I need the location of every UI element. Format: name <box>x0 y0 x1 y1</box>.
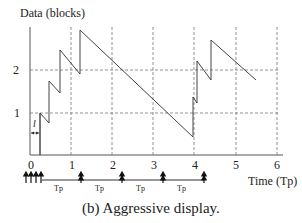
interval-label: l <box>33 118 36 130</box>
x-tick-4: 4 <box>192 159 198 171</box>
x-tick-1: 1 <box>69 159 75 171</box>
interval-arrowhead-left <box>31 132 34 135</box>
period-label-1: Tp <box>54 185 63 193</box>
figure-caption: (b) Aggressive display. <box>0 200 302 217</box>
vertical-gridlines <box>71 27 277 155</box>
horizontal-gridlines <box>30 70 278 113</box>
interval-arrowhead-right <box>36 132 39 135</box>
x-axis-label: Time (Tp) <box>248 175 297 187</box>
y-tick-1: 1 <box>14 107 20 119</box>
y-tick-2: 2 <box>13 64 19 76</box>
arrival-arrows <box>24 172 206 183</box>
x-tick-2: 2 <box>110 159 116 171</box>
x-tick-3: 3 <box>151 159 157 171</box>
x-tick-6: 6 <box>274 159 280 171</box>
x-tick-5: 5 <box>233 159 239 171</box>
x-tick-0: 0 <box>28 159 34 171</box>
data-curve <box>40 30 256 155</box>
period-label-2: Tp <box>95 185 104 193</box>
sawtooth-chart <box>0 0 302 223</box>
period-label-4: Tp <box>177 185 186 193</box>
y-axis-label: Data (blocks) <box>20 7 85 19</box>
period-label-3: Tp <box>136 185 145 193</box>
